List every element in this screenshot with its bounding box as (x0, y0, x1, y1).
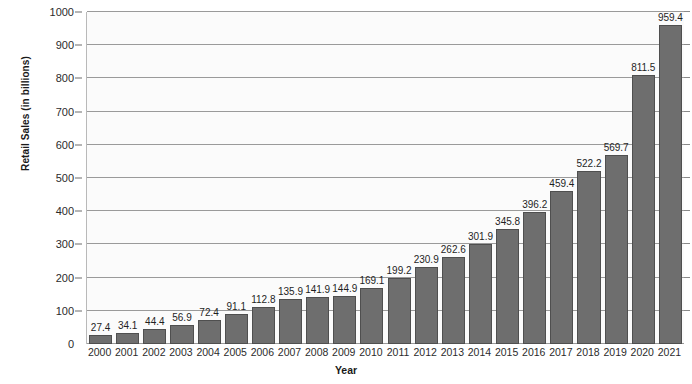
bar[interactable] (523, 212, 546, 344)
bar[interactable] (659, 25, 682, 344)
x-axis-tick-label: 2018 (574, 346, 601, 358)
y-axis-tick-mark (75, 244, 82, 245)
right-axis-tick (684, 77, 690, 78)
bar[interactable] (632, 75, 655, 344)
bar-value-label: 72.4 (199, 307, 218, 318)
bar-value-label: 459.4 (549, 178, 574, 189)
bar[interactable] (279, 299, 302, 344)
bar[interactable] (306, 297, 329, 344)
y-axis-tick-mark (75, 111, 82, 112)
right-axis-tick (684, 44, 690, 45)
bar[interactable] (605, 155, 628, 344)
bar-value-label: 169.1 (359, 275, 384, 286)
bar[interactable] (469, 244, 492, 344)
x-axis-tick-label: 2000 (86, 346, 113, 358)
x-axis-tick-label: 2012 (412, 346, 439, 358)
x-axis-tick-label: 2009 (330, 346, 357, 358)
right-axis-tick (684, 11, 690, 12)
bar[interactable] (116, 333, 139, 344)
bar[interactable] (442, 257, 465, 344)
y-axis-tick-label: 300 (56, 238, 74, 250)
x-axis-tick-label: 2010 (357, 346, 384, 358)
x-axis-title: Year (0, 364, 692, 376)
x-axis-tick-label: 2002 (140, 346, 167, 358)
bar[interactable] (388, 278, 411, 344)
y-axis-tick-mark (75, 178, 82, 179)
bar-value-label: 522.2 (577, 158, 602, 169)
bar-value-label: 91.1 (227, 301, 246, 312)
x-axis-tick-label: 2014 (466, 346, 493, 358)
y-axis-tick-mark (75, 277, 82, 278)
y-axis-tick-label: 0 (68, 338, 74, 350)
bar-value-label: 811.5 (631, 62, 655, 73)
x-axis-tick-label: 2015 (493, 346, 520, 358)
bar-value-label: 199.2 (387, 265, 412, 276)
y-axis-tick-label: 1000 (50, 6, 74, 18)
right-axis-tick (684, 177, 690, 178)
x-axis-tick-labels: 2000200120022003200420052006200720082009… (86, 346, 683, 362)
bar-value-label: 141.9 (305, 284, 330, 295)
bar-value-label: 262.6 (441, 244, 466, 255)
x-axis-tick-label: 2008 (303, 346, 330, 358)
bar-value-label: 396.2 (522, 199, 547, 210)
y-axis-tick-label: 100 (56, 305, 74, 317)
bar[interactable] (252, 307, 275, 344)
bar-value-label: 44.4 (145, 316, 164, 327)
x-axis-tick-label: 2013 (439, 346, 466, 358)
y-axis-tick-mark (75, 45, 82, 46)
y-axis-tick-label: 700 (56, 106, 74, 118)
x-axis-tick-label: 2003 (167, 346, 194, 358)
x-axis-tick-label: 2019 (602, 346, 629, 358)
bar[interactable] (577, 171, 600, 344)
bar[interactable] (333, 296, 356, 344)
bar-value-label: 345.8 (495, 216, 520, 227)
x-axis-tick-label: 2011 (385, 346, 412, 358)
plot-area: 27.434.144.456.972.491.1112.8135.9141.91… (86, 12, 684, 344)
y-axis-tick-mark (75, 12, 82, 13)
bar-series: 27.434.144.456.972.491.1112.8135.9141.91… (87, 12, 684, 344)
bar-value-label: 56.9 (172, 312, 191, 323)
right-axis-tick (684, 210, 690, 211)
y-axis-tick-mark (75, 144, 82, 145)
y-axis-tick-label: 500 (56, 172, 74, 184)
bar[interactable] (170, 325, 193, 344)
x-axis-tick-label: 2007 (276, 346, 303, 358)
y-axis-tick-label: 200 (56, 272, 74, 284)
bar-value-label: 230.9 (414, 254, 439, 265)
bar-value-label: 569.7 (604, 142, 629, 153)
y-axis-tick-label: 900 (56, 39, 74, 51)
y-axis-tick-label: 800 (56, 72, 74, 84)
x-axis-tick-label: 2006 (249, 346, 276, 358)
bar-value-label: 27.4 (91, 322, 110, 333)
bar-value-label: 112.8 (251, 294, 275, 305)
x-axis-tick-label: 2017 (547, 346, 574, 358)
y-axis-tick-label: 400 (56, 205, 74, 217)
right-axis-tick (684, 310, 690, 311)
bar[interactable] (550, 191, 573, 344)
bar-value-label: 34.1 (118, 320, 137, 331)
bar[interactable] (360, 288, 383, 344)
bar-value-label: 301.9 (468, 231, 493, 242)
x-axis-tick-label: 2005 (222, 346, 249, 358)
right-axis-tick (684, 243, 690, 244)
bar[interactable] (198, 320, 221, 344)
y-axis-tick-label: 600 (56, 139, 74, 151)
right-axis-tick (684, 111, 690, 112)
x-axis-tick-label: 2004 (195, 346, 222, 358)
x-axis-tick-label: 2001 (113, 346, 140, 358)
bar[interactable] (143, 329, 166, 344)
bar-value-label: 144.9 (332, 283, 357, 294)
x-axis-tick-label: 2020 (629, 346, 656, 358)
bar[interactable] (225, 314, 248, 344)
y-axis-tick-mark (75, 78, 82, 79)
x-axis-tick-label: 2021 (656, 346, 683, 358)
y-axis-tick-labels: 01002003004005006007008009001000 (22, 0, 82, 384)
y-axis-tick-mark (75, 211, 82, 212)
bar[interactable] (89, 335, 112, 344)
x-axis-tick-label: 2016 (520, 346, 547, 358)
right-axis-tick (684, 144, 690, 145)
bar[interactable] (415, 267, 438, 344)
bar-value-label: 135.9 (278, 286, 303, 297)
chart-page: Retail Sales (in billions) 0100200300400… (0, 0, 692, 384)
bar[interactable] (496, 229, 519, 344)
